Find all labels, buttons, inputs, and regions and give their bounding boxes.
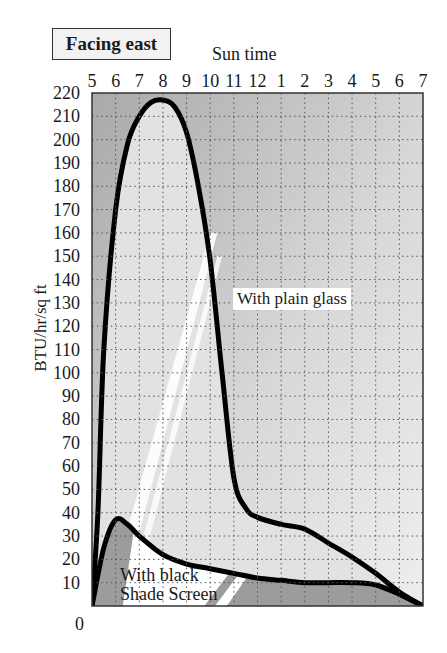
y-tick-label: 170 bbox=[53, 200, 80, 220]
x-tick-label: 4 bbox=[348, 71, 357, 91]
x-tick-label: 5 bbox=[371, 71, 380, 91]
x-tick-label: 5 bbox=[88, 71, 97, 91]
y-tick-label: 180 bbox=[53, 176, 80, 196]
y-tick-label: 200 bbox=[53, 130, 80, 150]
x-tick-label: 8 bbox=[158, 71, 167, 91]
y-tick-label: 30 bbox=[62, 526, 80, 546]
y-tick-label: 80 bbox=[62, 409, 80, 429]
x-tick-label: 7 bbox=[419, 71, 428, 91]
label-shade-line1: With black bbox=[120, 566, 217, 585]
line-chart: 5678910111212345670102030405060708090100… bbox=[0, 0, 447, 653]
y-tick-label: 60 bbox=[62, 456, 80, 476]
y-tick-label: 90 bbox=[62, 386, 80, 406]
y-tick-label: 50 bbox=[62, 479, 80, 499]
x-tick-label: 3 bbox=[324, 71, 333, 91]
label-shade-screen: With black Shade Screen bbox=[120, 566, 217, 604]
x-tick-label: 10 bbox=[201, 71, 219, 91]
y-tick-label: 150 bbox=[53, 246, 80, 266]
y-tick-label: 140 bbox=[53, 270, 80, 290]
y-tick-label: 210 bbox=[53, 106, 80, 126]
x-tick-label: 9 bbox=[182, 71, 191, 91]
x-tick-label: 2 bbox=[300, 71, 309, 91]
y-tick-label: 220 bbox=[53, 83, 80, 103]
x-tick-label: 11 bbox=[225, 71, 242, 91]
y-tick-label: 70 bbox=[62, 433, 80, 453]
x-tick-label: 6 bbox=[395, 71, 404, 91]
y-tick-label: 120 bbox=[53, 316, 80, 336]
y-tick-label: 110 bbox=[54, 340, 80, 360]
label-shade-line2: Shade Screen bbox=[120, 585, 217, 604]
x-tick-label: 7 bbox=[135, 71, 144, 91]
y-tick-label: 160 bbox=[53, 223, 80, 243]
y-tick-label: 20 bbox=[62, 549, 80, 569]
x-tick-label: 6 bbox=[111, 71, 120, 91]
y-tick-label: 130 bbox=[53, 293, 80, 313]
x-tick-label: 12 bbox=[249, 71, 267, 91]
y-tick-label: 100 bbox=[53, 363, 80, 383]
y-tick-label: 40 bbox=[62, 503, 80, 523]
x-tick-label: 1 bbox=[277, 71, 286, 91]
y-tick-label: 190 bbox=[53, 153, 80, 173]
y-tick-label: 10 bbox=[62, 573, 80, 593]
label-plain-glass: With plain glass bbox=[233, 288, 351, 310]
y-tick-label: 0 bbox=[75, 614, 84, 634]
